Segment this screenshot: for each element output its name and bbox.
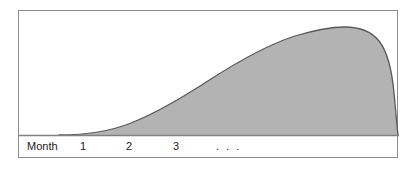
chart-frame: Month 1 2 3 . . .: [18, 10, 398, 158]
figure-container: Month 1 2 3 . . .: [0, 0, 417, 173]
plot-area: [19, 11, 399, 159]
x-tick-label-2: 2: [122, 139, 136, 153]
x-tick-label-1: 1: [76, 139, 90, 153]
axis-name-label: Month: [27, 139, 58, 153]
curve-area-fill: [59, 27, 398, 135]
x-axis-continuation-ellipsis: . . .: [216, 139, 241, 153]
x-tick-label-3: 3: [169, 139, 183, 153]
area-chart-svg: [19, 11, 399, 159]
